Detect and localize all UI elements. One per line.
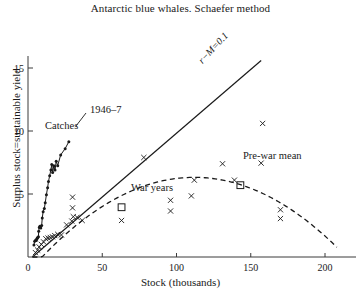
scatter-x-marker: [141, 155, 146, 160]
y-tick-label: 5: [4, 189, 24, 200]
scatter-x-marker: [189, 193, 194, 198]
period-mean-square: [118, 204, 125, 211]
annotation-catches: Catches: [45, 120, 78, 131]
x-tick-label: 50: [97, 262, 107, 273]
scatter-x-marker: [278, 216, 283, 221]
y-tick-label: 10: [4, 126, 24, 137]
catches-point: [51, 171, 54, 174]
catches-point: [37, 235, 40, 238]
catches-point: [59, 153, 62, 156]
x-tick-label: 0: [26, 262, 31, 273]
catches-point: [45, 193, 48, 196]
scatter-x-marker: [70, 205, 75, 210]
scatter-x-marker: [41, 239, 46, 244]
catches-point: [40, 224, 43, 227]
scatter-x-marker: [70, 195, 75, 200]
scatter-x-marker: [220, 161, 225, 166]
scatter-x-marker: [64, 222, 69, 227]
x-axis-title: Stock (thousands): [0, 276, 361, 288]
scatter-x-marker: [168, 208, 173, 213]
catches-point: [49, 169, 52, 172]
catches-point: [37, 230, 40, 233]
catches-point: [48, 174, 51, 177]
scatter-x-marker: [59, 232, 64, 237]
scatter-x-marker: [168, 198, 173, 203]
chart-figure: Antarctic blue whales. Schaefer method C…: [0, 0, 361, 295]
catches-point: [64, 147, 67, 150]
catches-point: [46, 186, 49, 189]
scatter-x-marker: [278, 207, 283, 212]
annotation-1946-7: 1946–7: [90, 104, 122, 115]
catches-point: [44, 201, 47, 204]
scatter-x-marker: [80, 218, 85, 223]
catches-point: [47, 180, 50, 183]
catches-point: [43, 207, 46, 210]
scatter-x-marker: [119, 218, 124, 223]
catches-point: [41, 216, 44, 219]
scatter-x-marker: [259, 161, 264, 166]
catches-point: [32, 244, 35, 247]
scatter-x-marker: [192, 178, 197, 183]
axes-group: [28, 56, 356, 257]
scatter-x-marker: [260, 121, 265, 126]
catches-point: [55, 160, 58, 163]
catches-point: [42, 210, 45, 213]
r-minus-m-line: [32, 60, 261, 257]
catches-point: [56, 164, 59, 167]
x-tick-label: 100: [169, 262, 184, 273]
x-tick-label: 150: [243, 262, 258, 273]
y-tick-label: 15: [4, 63, 24, 74]
plot-canvas: [0, 0, 361, 295]
annotation-pre-war-mean: Pre-war mean: [243, 150, 302, 161]
annotation-war-years: War years: [131, 182, 173, 193]
catches-point: [67, 140, 70, 143]
x-tick-label: 200: [318, 262, 333, 273]
catches-point: [52, 164, 55, 167]
scatter-x-marker: [232, 178, 237, 183]
catches-point: [54, 169, 57, 172]
